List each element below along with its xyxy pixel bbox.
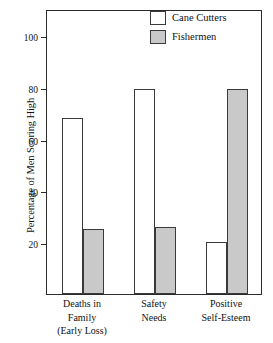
x-axis-category-label: SafetyNeeds — [118, 297, 190, 324]
bar-cane-cutters — [206, 242, 227, 294]
y-axis-tick-label: 20 — [29, 240, 39, 250]
category-label-line: Self-Esteem — [190, 311, 262, 325]
category-label-line: Safety — [118, 297, 190, 311]
y-axis-tick-label: 40 — [29, 188, 39, 198]
legend-item-fishermen: Fishermen — [150, 27, 227, 46]
y-axis-tick-label: 100 — [24, 33, 38, 43]
bar-fishermen — [155, 227, 176, 294]
category-label-line: (Early Loss) — [46, 324, 118, 338]
category-label-line: Deaths in — [46, 297, 118, 311]
plot-area: 20406080100 — [46, 10, 262, 295]
x-axis-category-label: PositiveSelf-Esteem — [190, 297, 262, 324]
white-square-swatch-icon — [150, 11, 166, 25]
x-axis-category-labels: Deaths inFamily(Early Loss)SafetyNeedsPo… — [46, 297, 262, 343]
legend-label: Cane Cutters — [172, 12, 227, 23]
bar-fishermen — [227, 89, 248, 294]
gray-square-swatch-icon — [150, 30, 166, 44]
legend-label: Fishermen — [172, 31, 216, 42]
bar-cane-cutters — [134, 89, 155, 294]
category-label-line: Positive — [190, 297, 262, 311]
bars-layer — [47, 11, 261, 294]
bar-chart: Percentage of Men Scoring High 204060801… — [0, 0, 273, 343]
x-axis-category-label: Deaths inFamily(Early Loss) — [46, 297, 118, 338]
y-axis-tick-label: 60 — [29, 137, 39, 147]
legend-item-cane-cutters: Cane Cutters — [150, 8, 227, 27]
chart-legend: Cane Cutters Fishermen — [150, 8, 227, 46]
category-label-line: Needs — [118, 311, 190, 325]
bar-cane-cutters — [62, 118, 83, 294]
y-axis-tick-label: 80 — [29, 85, 39, 95]
y-axis-title: Percentage of Men Scoring High — [25, 66, 36, 266]
bar-fishermen — [83, 229, 104, 294]
category-label-line: Family — [46, 311, 118, 325]
